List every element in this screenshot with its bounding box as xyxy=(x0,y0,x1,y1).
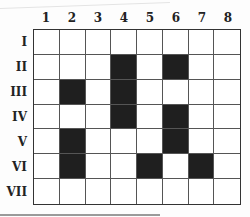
grid-cell xyxy=(34,179,60,204)
grid-cell xyxy=(86,154,112,179)
grid-cell-filled xyxy=(189,154,215,179)
row-label: II xyxy=(0,54,30,79)
grid-cell xyxy=(60,105,86,130)
grid-cell xyxy=(111,179,137,204)
grid-cell xyxy=(86,55,112,80)
grid-cell xyxy=(214,55,240,80)
grid-cell xyxy=(111,129,137,154)
column-label: 1 xyxy=(33,10,59,26)
grid-cell xyxy=(60,30,86,55)
column-label: 2 xyxy=(59,10,85,26)
grid-cell xyxy=(214,179,240,204)
grid-cell xyxy=(214,80,240,105)
grid-cell xyxy=(214,154,240,179)
row-labels: I II III IV V VI VII xyxy=(0,29,30,205)
grid-cell-filled xyxy=(60,129,86,154)
row-label: V xyxy=(0,130,30,155)
grid-cell xyxy=(86,80,112,105)
grid-cell xyxy=(189,129,215,154)
grid-cell-filled xyxy=(137,154,163,179)
grid-cell xyxy=(189,55,215,80)
column-label: 5 xyxy=(137,10,163,26)
scan-edge-line xyxy=(0,214,160,216)
grid-cell xyxy=(34,129,60,154)
grid-cell xyxy=(86,179,112,204)
row-label: VII xyxy=(0,180,30,205)
grid-cell xyxy=(189,30,215,55)
grid-cell-filled xyxy=(60,154,86,179)
grid-cell xyxy=(137,30,163,55)
grid-cell-filled xyxy=(163,105,189,130)
grid xyxy=(33,29,241,205)
grid-cell xyxy=(163,154,189,179)
grid-cell xyxy=(137,129,163,154)
grid-cell xyxy=(60,179,86,204)
grid-cell xyxy=(163,179,189,204)
grid-cell xyxy=(86,30,112,55)
grid-cell xyxy=(137,80,163,105)
grid-cell-filled xyxy=(111,55,137,80)
grid-cell-filled xyxy=(60,80,86,105)
column-label: 8 xyxy=(215,10,241,26)
grid-cell xyxy=(189,80,215,105)
grid-cell xyxy=(86,105,112,130)
scan-edge-line xyxy=(0,2,170,9)
grid-cell xyxy=(137,105,163,130)
grid-cell xyxy=(34,55,60,80)
grid-cell xyxy=(163,80,189,105)
grid-cell xyxy=(34,154,60,179)
grid-cell xyxy=(137,179,163,204)
grid-cell-filled xyxy=(111,80,137,105)
grid-cell xyxy=(214,129,240,154)
grid-cell-filled xyxy=(163,129,189,154)
grid-cell xyxy=(111,30,137,55)
row-label: IV xyxy=(0,104,30,129)
row-label: VI xyxy=(0,155,30,180)
grid-cell xyxy=(60,55,86,80)
column-labels: 1 2 3 4 5 6 7 8 xyxy=(33,10,241,26)
grid-cell-filled xyxy=(111,105,137,130)
grid-cell xyxy=(111,154,137,179)
grid-cell xyxy=(34,80,60,105)
row-label: III xyxy=(0,79,30,104)
grid-cell xyxy=(34,105,60,130)
grid-cell xyxy=(214,30,240,55)
grid-cell xyxy=(189,105,215,130)
grid-cell xyxy=(214,105,240,130)
grid-cell xyxy=(163,30,189,55)
grid-cell-filled xyxy=(163,55,189,80)
column-label: 3 xyxy=(85,10,111,26)
grid-cell xyxy=(137,55,163,80)
column-label: 6 xyxy=(163,10,189,26)
grid-cell xyxy=(34,30,60,55)
grid-cell xyxy=(86,129,112,154)
grid-cell xyxy=(189,179,215,204)
column-label: 4 xyxy=(111,10,137,26)
row-label: I xyxy=(0,29,30,54)
column-label: 7 xyxy=(189,10,215,26)
